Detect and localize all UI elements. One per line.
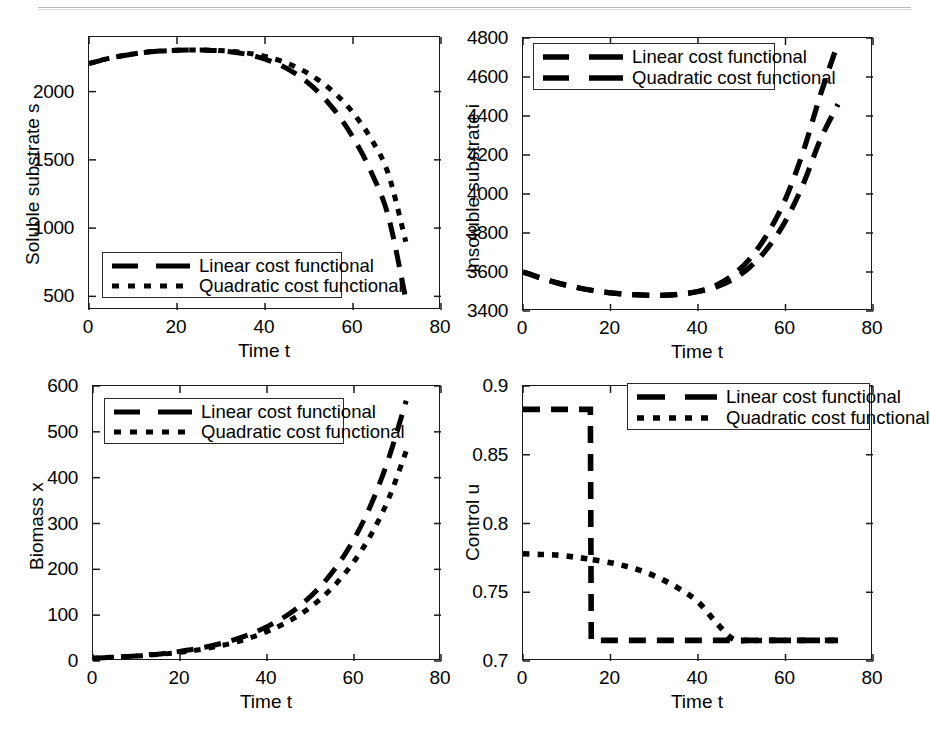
x-tick-label: 80 xyxy=(842,668,902,687)
x-axis-title-soluble-substrate: Time t xyxy=(194,340,334,362)
x-tick-label: 80 xyxy=(842,318,902,337)
legend-label-linear: Linear cost functional xyxy=(632,48,807,67)
x-tick-label: 40 xyxy=(236,668,296,687)
legend-row-quadratic: Quadratic cost functional xyxy=(541,67,836,89)
legend-swatch-dashed-icon xyxy=(110,256,192,276)
panel-soluble-substrate: Soluble substrate s Time t 5001000150020… xyxy=(0,0,455,366)
legend-swatch-dashed-icon xyxy=(541,47,625,67)
legend-label-quadratic: Quadratic cost functional xyxy=(726,409,930,428)
x-tick-label: 20 xyxy=(580,668,640,687)
y-tick-label: 200 xyxy=(2,559,78,578)
y-tick-label: 500 xyxy=(0,286,74,305)
x-axis-title-control: Time t xyxy=(627,691,767,713)
y-tick-label: 0.85 xyxy=(432,445,508,464)
legend-row-quadratic: Quadratic cost functional xyxy=(110,275,403,297)
y-tick-label: 1500 xyxy=(0,150,74,169)
x-tick-label: 20 xyxy=(580,318,640,337)
x-tick-label: 40 xyxy=(667,668,727,687)
legend-swatch-dotted-icon xyxy=(635,408,719,428)
legend-insoluble-substrate: Linear cost functional Quadratic cost fu… xyxy=(533,43,775,90)
x-axis-title-biomass: Time t xyxy=(196,691,336,713)
y-tick-label: 3600 xyxy=(432,262,508,281)
y-tick-label: 600 xyxy=(2,376,78,395)
legend-label-linear: Linear cost functional xyxy=(201,403,376,422)
legend-swatch-dotted-icon xyxy=(112,422,194,442)
x-tick-label: 20 xyxy=(146,317,206,336)
legend-swatch-dashed-icon xyxy=(635,387,719,407)
y-tick-label: 0.9 xyxy=(432,376,508,395)
y-axis-title-soluble-substrate: Soluble substrate s xyxy=(22,103,44,265)
legend-soluble-substrate: Linear cost functional Quadratic cost fu… xyxy=(102,252,342,298)
y-tick-label: 300 xyxy=(2,514,78,533)
x-tick-label: 0 xyxy=(492,318,552,337)
x-tick-label: 40 xyxy=(234,317,294,336)
legend-swatch-dashed-icon xyxy=(541,68,625,88)
legend-control: Linear cost functional Quadratic cost fu… xyxy=(627,383,870,430)
legend-biomass: Linear cost functional Quadratic cost fu… xyxy=(104,398,344,444)
x-axis-title-insoluble-substrate: Time t xyxy=(627,341,767,363)
legend-row-linear: Linear cost functional xyxy=(110,255,374,277)
y-tick-label: 4400 xyxy=(432,106,508,125)
legend-label-quadratic: Quadratic cost functional xyxy=(199,277,403,296)
legend-label-quadratic: Quadratic cost functional xyxy=(201,423,405,442)
legend-row-quadratic: Quadratic cost functional xyxy=(635,407,930,429)
legend-row-quadratic: Quadratic cost functional xyxy=(112,421,405,443)
x-tick-label: 40 xyxy=(667,318,727,337)
legend-row-linear: Linear cost functional xyxy=(112,401,376,423)
y-tick-label: 2000 xyxy=(0,82,74,101)
legend-label-linear: Linear cost functional xyxy=(726,388,901,407)
legend-row-linear: Linear cost functional xyxy=(635,386,901,408)
y-tick-label: 4600 xyxy=(432,67,508,86)
x-tick-label: 0 xyxy=(62,668,122,687)
legend-swatch-dotted-icon xyxy=(110,276,192,296)
x-tick-label: 60 xyxy=(323,668,383,687)
y-tick-label: 100 xyxy=(2,605,78,624)
x-tick-label: 60 xyxy=(755,318,815,337)
y-tick-label: 500 xyxy=(2,422,78,441)
y-tick-label: 3800 xyxy=(432,223,508,242)
y-tick-label: 0.8 xyxy=(432,514,508,533)
y-tick-label: 1000 xyxy=(0,218,74,237)
x-tick-label: 20 xyxy=(149,668,209,687)
x-tick-label: 60 xyxy=(755,668,815,687)
y-tick-label: 0.75 xyxy=(432,582,508,601)
y-tick-label: 400 xyxy=(2,468,78,487)
x-tick-label: 0 xyxy=(58,317,118,336)
x-tick-label: 60 xyxy=(322,317,382,336)
y-tick-label: 4000 xyxy=(432,184,508,203)
legend-swatch-dashed-icon xyxy=(112,402,194,422)
legend-label-quadratic: Quadratic cost functional xyxy=(632,69,836,88)
legend-row-linear: Linear cost functional xyxy=(541,46,807,68)
y-tick-label: 4200 xyxy=(432,145,508,164)
legend-label-linear: Linear cost functional xyxy=(199,257,374,276)
x-tick-label: 0 xyxy=(492,668,552,687)
y-tick-label: 4800 xyxy=(432,28,508,47)
